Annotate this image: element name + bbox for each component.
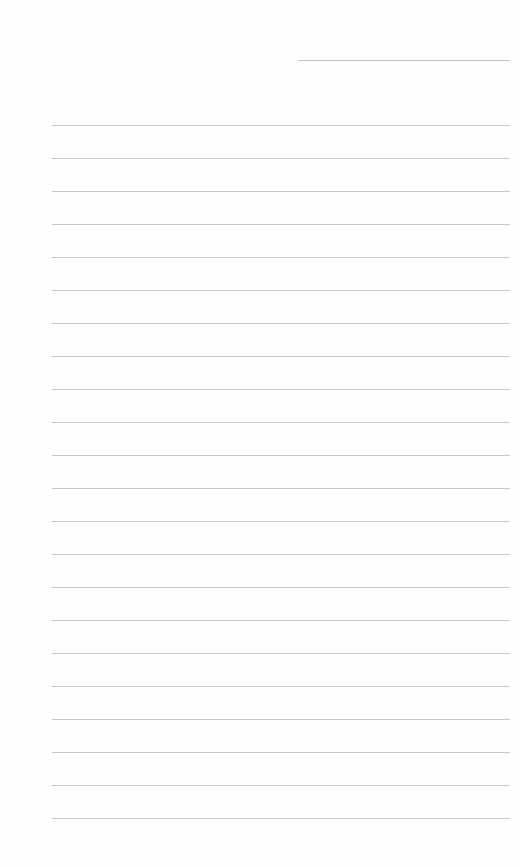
ruled-line <box>52 521 510 522</box>
lined-paper-page <box>0 0 520 867</box>
ruled-line <box>52 158 510 159</box>
ruled-line <box>52 323 510 324</box>
ruled-line <box>52 752 510 753</box>
ruled-line <box>52 686 510 687</box>
ruled-line <box>52 719 510 720</box>
ruled-line <box>52 587 510 588</box>
ruled-line <box>52 191 510 192</box>
ruled-line <box>52 290 510 291</box>
ruled-line <box>52 356 510 357</box>
ruled-line <box>52 818 510 819</box>
ruled-line <box>52 488 510 489</box>
ruled-line <box>52 389 510 390</box>
header-line <box>298 60 510 61</box>
ruled-line <box>52 653 510 654</box>
ruled-line <box>52 125 510 126</box>
ruled-line <box>52 620 510 621</box>
ruled-line <box>52 785 510 786</box>
ruled-line <box>52 455 510 456</box>
ruled-line <box>52 554 510 555</box>
ruled-line <box>52 224 510 225</box>
ruled-line <box>52 422 510 423</box>
ruled-line <box>52 257 510 258</box>
